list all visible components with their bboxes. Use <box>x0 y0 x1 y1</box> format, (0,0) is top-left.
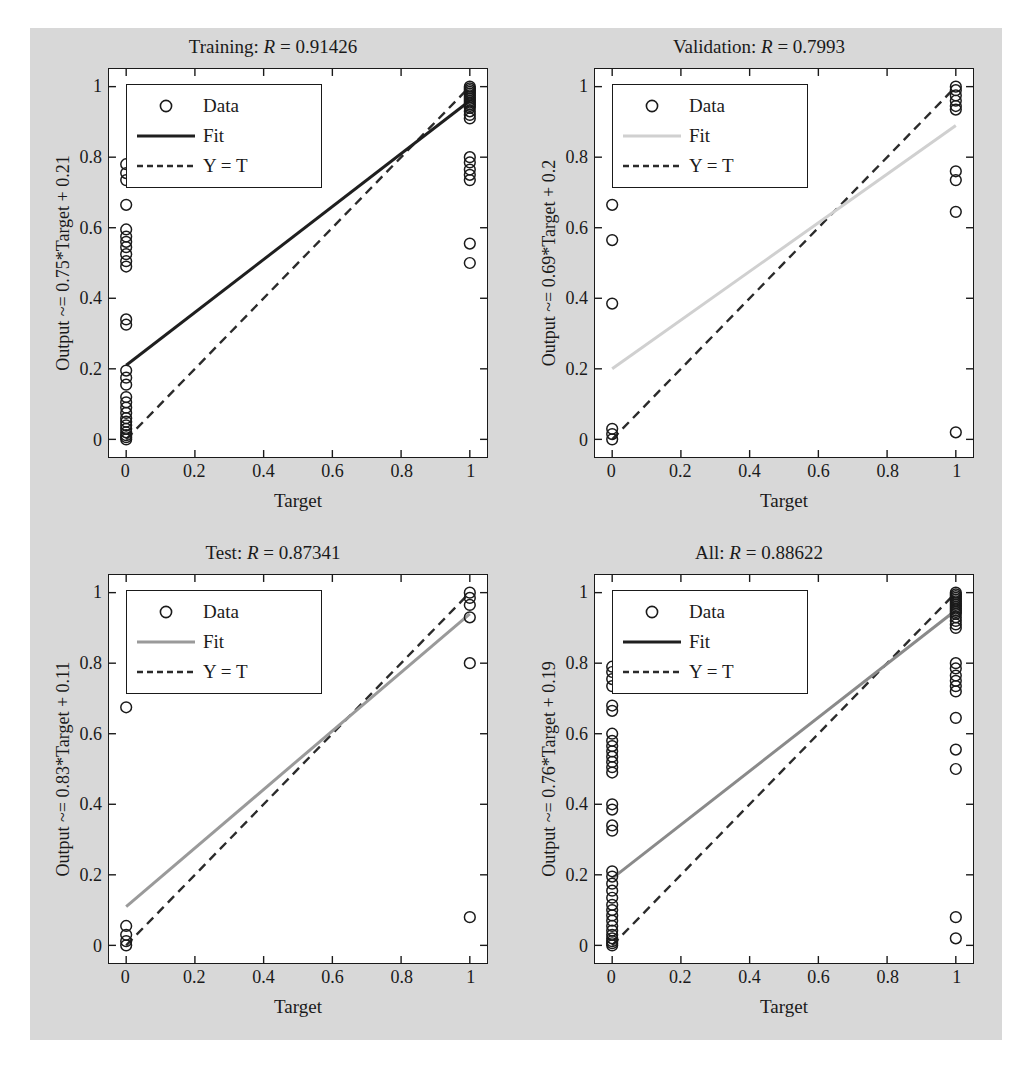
solid-line-icon <box>615 131 689 141</box>
panel-test: Test: R = 0.87341 Output ~= 0.83*Target … <box>30 534 516 1040</box>
y-tick-label: 0.2 <box>54 866 102 884</box>
y-tick-label: 0 <box>540 431 588 449</box>
x-tick-label: 0.8 <box>379 968 425 986</box>
y-tick-label: 0.6 <box>540 725 588 743</box>
r-symbol: R <box>761 36 773 57</box>
legend-label-fit: Fit <box>689 631 710 653</box>
r-symbol: R <box>729 542 741 563</box>
x-tick-label: 0.2 <box>657 968 703 986</box>
y-tick-label: 1 <box>540 583 588 601</box>
y-axis-ticks-test: 00.20.40.60.81 <box>54 574 102 964</box>
y-tick-label: 0 <box>540 937 588 955</box>
legend-label-data: Data <box>203 95 239 117</box>
legend-label-fit: Fit <box>689 125 710 147</box>
legend-all: Data Fit Y = T <box>612 590 808 694</box>
panel-title-validation: Validation: R = 0.7993 <box>516 36 1002 58</box>
legend-test: Data Fit Y = T <box>126 590 322 694</box>
r-symbol: R <box>247 542 259 563</box>
x-tick-label: 1 <box>934 462 980 480</box>
solid-line-icon <box>615 637 689 647</box>
legend-row-data: Data <box>129 597 313 627</box>
x-tick-label: 0.6 <box>796 968 842 986</box>
x-tick-label: 0.4 <box>240 968 286 986</box>
legend-label-fit: Fit <box>203 125 224 147</box>
y-tick-label: 0.8 <box>540 148 588 166</box>
panel-title-all: All: R = 0.88622 <box>516 542 1002 564</box>
panel-title-training: Training: R = 0.91426 <box>30 36 516 58</box>
y-tick-label: 0.6 <box>54 219 102 237</box>
solid-line-icon <box>129 131 203 141</box>
legend-row-data: Data <box>615 597 799 627</box>
dashed-line-icon <box>615 667 689 677</box>
x-tick-label: 0.8 <box>379 462 425 480</box>
x-tick-label: 0 <box>102 462 148 480</box>
legend-label-identity: Y = T <box>203 155 248 177</box>
x-axis-label-validation: Target <box>594 490 974 512</box>
x-tick-label: 0.2 <box>657 462 703 480</box>
x-axis-label-test: Target <box>108 996 488 1018</box>
x-tick-label: 0.8 <box>865 462 911 480</box>
dashed-line-icon <box>615 161 689 171</box>
y-tick-label: 0.2 <box>540 866 588 884</box>
circle-marker-icon <box>129 97 203 115</box>
x-tick-label: 1 <box>448 968 494 986</box>
solid-line-icon <box>129 637 203 647</box>
y-tick-label: 0.4 <box>540 289 588 307</box>
circle-marker-icon <box>129 603 203 621</box>
panel-all: All: R = 0.88622 Output ~= 0.76*Target +… <box>516 534 1002 1040</box>
legend-label-identity: Y = T <box>203 661 248 683</box>
r-symbol: R <box>264 36 276 57</box>
x-tick-label: 1 <box>448 462 494 480</box>
x-tick-label: 0.4 <box>240 462 286 480</box>
y-tick-label: 1 <box>54 583 102 601</box>
dashed-line-icon <box>129 667 203 677</box>
y-tick-label: 0.8 <box>54 148 102 166</box>
y-tick-label: 0.2 <box>540 360 588 378</box>
y-tick-label: 0.8 <box>540 654 588 672</box>
legend-row-identity: Y = T <box>129 657 313 687</box>
y-tick-label: 0.4 <box>54 795 102 813</box>
x-tick-label: 0.6 <box>310 968 356 986</box>
legend-label-data: Data <box>203 601 239 623</box>
legend-label-identity: Y = T <box>689 155 734 177</box>
circle-marker-icon <box>615 97 689 115</box>
x-tick-label: 0 <box>102 968 148 986</box>
x-tick-label: 0 <box>588 968 634 986</box>
x-axis-ticks-all: 00.20.40.60.81 <box>594 968 974 992</box>
dashed-line-icon <box>129 161 203 171</box>
y-tick-label: 0 <box>54 431 102 449</box>
legend-label-identity: Y = T <box>689 661 734 683</box>
x-tick-label: 0 <box>588 462 634 480</box>
legend-training: Data Fit Y = T <box>126 84 322 188</box>
legend-row-identity: Y = T <box>615 151 799 181</box>
x-tick-label: 0.6 <box>796 462 842 480</box>
legend-validation: Data Fit Y = T <box>612 84 808 188</box>
y-axis-ticks-validation: 00.20.40.60.81 <box>540 68 588 458</box>
circle-marker-icon <box>615 603 689 621</box>
y-tick-label: 0.4 <box>540 795 588 813</box>
x-axis-label-all: Target <box>594 996 974 1018</box>
x-tick-label: 0.2 <box>171 462 217 480</box>
legend-row-fit: Fit <box>615 627 799 657</box>
legend-label-fit: Fit <box>203 631 224 653</box>
legend-row-data: Data <box>615 91 799 121</box>
x-axis-ticks-test: 00.20.40.60.81 <box>108 968 488 992</box>
x-tick-label: 0.4 <box>726 968 772 986</box>
legend-row-fit: Fit <box>129 121 313 151</box>
panel-training: Training: R = 0.91426 Output ~= 0.75*Tar… <box>30 28 516 534</box>
y-tick-label: 0.6 <box>54 725 102 743</box>
legend-row-data: Data <box>129 91 313 121</box>
y-tick-label: 0.8 <box>54 654 102 672</box>
y-tick-label: 0.6 <box>540 219 588 237</box>
x-tick-label: 0.6 <box>310 462 356 480</box>
y-axis-ticks-training: 00.20.40.60.81 <box>54 68 102 458</box>
legend-row-identity: Y = T <box>615 657 799 687</box>
y-tick-label: 0.4 <box>54 289 102 307</box>
regression-figure: Training: R = 0.91426 Output ~= 0.75*Tar… <box>30 28 1002 1040</box>
x-axis-ticks-validation: 00.20.40.60.81 <box>594 462 974 486</box>
x-axis-ticks-training: 00.20.40.60.81 <box>108 462 488 486</box>
legend-label-data: Data <box>689 601 725 623</box>
x-tick-label: 0.8 <box>865 968 911 986</box>
x-tick-label: 0.2 <box>171 968 217 986</box>
y-tick-label: 0 <box>54 937 102 955</box>
